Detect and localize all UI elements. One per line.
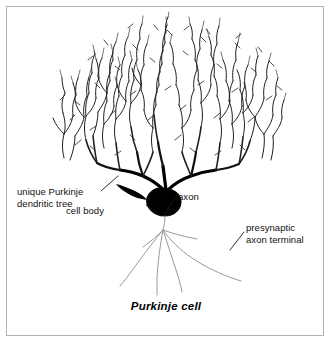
label-dendritic-tree-line1: unique Purkinje bbox=[17, 186, 83, 198]
label-presynaptic-line2: axon terminal bbox=[246, 234, 304, 246]
label-cell-body: cell body bbox=[66, 205, 104, 217]
axon bbox=[120, 216, 241, 295]
purkinje-cell-illustration bbox=[0, 0, 332, 344]
leader-dendritic-tree bbox=[101, 176, 118, 191]
label-axon: axon bbox=[178, 191, 199, 203]
dendritic-tree bbox=[53, 12, 286, 192]
figure-caption: Purkinje cell bbox=[0, 300, 332, 312]
label-presynaptic-line1: presynaptic bbox=[246, 222, 304, 234]
label-presynaptic-axon-terminal: presynaptic axon terminal bbox=[246, 222, 304, 245]
purkinje-cell-figure: unique Purkinje dendritic tree cell body… bbox=[0, 0, 332, 344]
leader-presynaptic bbox=[230, 232, 244, 250]
